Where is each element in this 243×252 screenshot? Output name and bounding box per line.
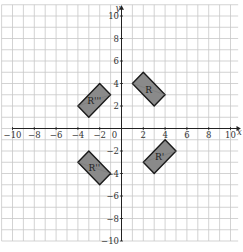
y-tick-label: 6 [114, 56, 119, 66]
shape-label: R [145, 85, 152, 95]
x-tick-label: 10 [225, 130, 236, 140]
y-tick-label: 8 [114, 34, 119, 44]
y-tick-label: −6 [106, 191, 119, 201]
y-tick-label: 2 [114, 101, 119, 111]
x-tick-label: −2 [93, 130, 106, 140]
shape-R: R [132, 72, 165, 106]
shape-label: R' [155, 152, 164, 162]
shape-Rpp: R'' [78, 151, 111, 185]
y-tick-label: −10 [101, 236, 119, 246]
x-tick-label: −10 [4, 130, 22, 140]
shape-Rp: R' [143, 140, 176, 174]
y-tick-label: 10 [108, 11, 119, 21]
x-axis-label: x [237, 127, 242, 137]
grid-lines [2, 5, 239, 241]
x-tick-label: 2 [141, 130, 146, 140]
x-tick-label: −4 [72, 130, 85, 140]
x-tick-label: −6 [50, 130, 63, 140]
shape-Rppp: R''' [78, 84, 111, 118]
shape-label: R''' [87, 96, 101, 106]
x-tick-label: −8 [28, 130, 41, 140]
coordinate-plane: xy −10−8−6−4−20246810108642−2−4−6−8−10 R… [0, 0, 243, 252]
y-tick-label: 4 [114, 79, 119, 89]
x-tick-label: 4 [162, 130, 167, 140]
y-tick-label: −8 [106, 214, 119, 224]
axes: xy [13, 3, 243, 241]
x-tick-label: 0 [112, 130, 117, 140]
x-tick-label: 6 [184, 130, 189, 140]
x-tick-label: 8 [206, 130, 211, 140]
shape-label: R'' [88, 163, 100, 173]
y-tick-label: −2 [106, 146, 119, 156]
